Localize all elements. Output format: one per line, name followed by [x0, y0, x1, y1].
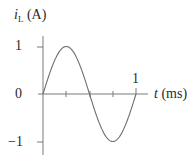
x-tick-label-1: 1	[132, 72, 139, 86]
y-axis-label: iL (A)	[14, 8, 46, 24]
y-tick-label-minus1: −1	[8, 135, 23, 149]
chart-plot	[0, 0, 195, 162]
y-tick-label-0: 0	[15, 87, 22, 101]
x-axis-label: t (ms)	[154, 87, 187, 101]
y-tick-label-1: 1	[15, 39, 22, 53]
